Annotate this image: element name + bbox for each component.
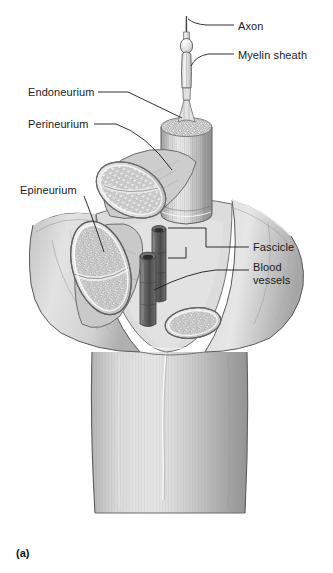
label-endoneurium: Endoneurium — [28, 86, 95, 99]
label-myelin-sheath: Myelin sheath — [238, 49, 307, 62]
label-epineurium: Epineurium — [20, 184, 77, 197]
label-axon: Axon — [238, 20, 263, 33]
leader-endoneurium — [98, 92, 182, 118]
label-blood-vessels-line2: vessels — [253, 274, 290, 286]
label-fascicle: Fascicle — [253, 241, 294, 254]
blood-vessel-lower — [140, 256, 156, 327]
label-blood-vessels-line1: Blood — [253, 261, 282, 273]
label-perineurium: Perineurium — [28, 118, 88, 131]
myelinated-axon — [180, 16, 192, 100]
nerve-trunk — [88, 350, 253, 520]
leader-myelin-sheath — [191, 54, 234, 66]
endoneurium-perineurium-funnel — [178, 100, 195, 122]
label-blood-vessels: Blood vessels — [253, 261, 313, 287]
figure-peripheral-nerve: Axon Myelin sheath Endoneurium Perineuri… — [0, 0, 333, 573]
panel-identifier: (a) — [16, 547, 29, 559]
leader-axon — [188, 19, 234, 25]
